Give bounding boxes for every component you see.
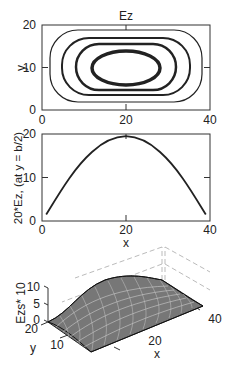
ytick-10: 10 [23, 171, 37, 185]
surface-zlabel: Ezs* 10 [14, 282, 28, 324]
ytick-20: 20 [23, 18, 37, 32]
contour-plot: Ez 20 10 0 0 20 40 y [14, 9, 217, 127]
line-xlabel: x [123, 236, 129, 250]
ytick-0: 0 [29, 214, 36, 228]
contour-lines [50, 30, 202, 102]
xtick-40: 40 [203, 113, 217, 127]
xtick-0: 0 [39, 113, 46, 127]
ztick-5: 5 [33, 297, 40, 311]
contour-level-4 [92, 51, 160, 85]
line-plot: 20 10 0 0 20 40 x 20*Ez, (at y = b/2) [12, 127, 217, 250]
contour-title: Ez [119, 9, 133, 23]
xtick-20: 20 [148, 334, 162, 348]
xtick-20: 20 [119, 223, 133, 237]
contour-ylabel: y [14, 65, 28, 71]
line-frame [42, 134, 210, 221]
xtick-40: 40 [203, 223, 217, 237]
surface-plot: 10 5 0 20 10 y 20 x 40 Ezs* 10 [14, 247, 222, 361]
ytick-0: 0 [29, 103, 36, 117]
xtick-20: 20 [119, 113, 133, 127]
ztick-10: 10 [27, 280, 41, 294]
surface-xlabel: x [154, 347, 160, 361]
ytick-10: 10 [50, 338, 64, 352]
figure: Ez 20 10 0 0 20 40 y 20 10 0 0 [0, 0, 234, 372]
surface-ylabel: y [30, 341, 36, 355]
line-series-curve [46, 136, 206, 214]
xtick-0: 0 [39, 223, 46, 237]
xtick-40: 40 [208, 312, 222, 326]
surface-mesh [48, 276, 203, 352]
ytick-20: 20 [23, 127, 37, 141]
line-ylabel: 20*Ez, (at y = b/2) [12, 132, 24, 225]
